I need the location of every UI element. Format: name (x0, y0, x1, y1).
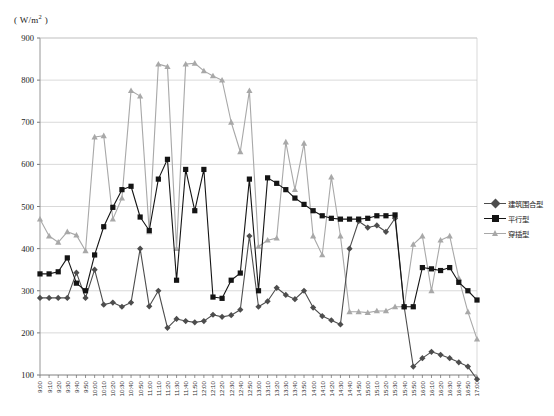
svg-text:11:10: 11:10 (155, 380, 162, 396)
svg-text:300: 300 (21, 286, 34, 296)
svg-text:16:20: 16:20 (437, 380, 444, 396)
svg-text:14:40: 14:40 (346, 380, 353, 396)
legend-label-0: 建筑围合型 (506, 198, 543, 209)
legend-item-jianzhuweiheixing[interactable]: 建筑围合型 (484, 196, 552, 211)
solar-radiation-line-chart: ( W/m2 ) 1002003004005006007008009009:00… (0, 0, 554, 416)
svg-text:15:00: 15:00 (364, 380, 371, 396)
svg-text:12:30: 12:30 (228, 380, 235, 396)
svg-text:200: 200 (21, 328, 34, 338)
svg-text:14:10: 14:10 (319, 380, 326, 396)
svg-text:11:30: 11:30 (173, 380, 180, 396)
legend-item-pingxingxing[interactable]: 平行型 (484, 211, 552, 226)
svg-text:10:00: 10:00 (91, 380, 98, 396)
svg-text:12:10: 12:10 (209, 380, 216, 396)
svg-text:15:10: 15:10 (373, 380, 380, 396)
svg-text:15:20: 15:20 (382, 380, 389, 396)
svg-text:400: 400 (21, 244, 34, 254)
svg-text:11:40: 11:40 (182, 380, 189, 396)
svg-text:900: 900 (21, 33, 34, 43)
svg-text:12:20: 12:20 (218, 380, 225, 396)
chart-svg: 1002003004005006007008009009:009:109:209… (0, 0, 554, 416)
svg-text:11:20: 11:20 (164, 380, 171, 396)
svg-text:9:40: 9:40 (73, 380, 80, 393)
legend-marker-diamond-icon (484, 198, 506, 209)
legend-label-1: 平行型 (506, 213, 529, 224)
svg-text:700: 700 (21, 117, 34, 127)
svg-text:13:30: 13:30 (282, 380, 289, 396)
chart-legend: 建筑围合型 平行型 穿插型 (484, 196, 552, 241)
svg-text:500: 500 (21, 202, 34, 212)
svg-text:16:10: 16:10 (428, 380, 435, 396)
legend-label-2: 穿插型 (506, 228, 529, 239)
svg-text:14:00: 14:00 (310, 380, 317, 396)
svg-text:11:00: 11:00 (146, 380, 153, 396)
legend-item-chuanchaxing[interactable]: 穿插型 (484, 226, 552, 241)
svg-text:14:30: 14:30 (337, 380, 344, 396)
svg-text:9:10: 9:10 (46, 380, 53, 393)
svg-text:9:20: 9:20 (55, 380, 62, 393)
svg-text:9:00: 9:00 (36, 380, 43, 393)
svg-text:100: 100 (21, 370, 34, 380)
svg-text:16:00: 16:00 (419, 380, 426, 396)
svg-text:13:00: 13:00 (255, 380, 262, 396)
svg-text:16:50: 16:50 (464, 380, 471, 396)
svg-text:600: 600 (21, 159, 34, 169)
plot-area: 1002003004005006007008009009:009:109:209… (0, 0, 554, 416)
svg-text:13:10: 13:10 (264, 380, 271, 396)
svg-text:13:50: 13:50 (300, 380, 307, 396)
svg-text:14:20: 14:20 (328, 380, 335, 396)
svg-text:9:50: 9:50 (82, 380, 89, 393)
svg-text:10:30: 10:30 (118, 380, 125, 396)
legend-marker-square-icon (484, 213, 506, 224)
svg-text:16:40: 16:40 (455, 380, 462, 396)
svg-text:13:40: 13:40 (291, 380, 298, 396)
svg-text:12:50: 12:50 (246, 380, 253, 396)
svg-text:14:50: 14:50 (355, 380, 362, 396)
svg-text:15:30: 15:30 (391, 380, 398, 396)
svg-text:10:50: 10:50 (137, 380, 144, 396)
svg-text:12:40: 12:40 (237, 380, 244, 396)
svg-text:9:30: 9:30 (64, 380, 71, 393)
svg-text:13:20: 13:20 (273, 380, 280, 396)
svg-text:15:40: 15:40 (401, 380, 408, 396)
svg-text:16:30: 16:30 (446, 380, 453, 396)
svg-text:10:40: 10:40 (127, 380, 134, 396)
svg-text:11:50: 11:50 (191, 380, 198, 396)
svg-text:10:10: 10:10 (100, 380, 107, 396)
svg-text:10:20: 10:20 (109, 380, 116, 396)
figure-caption (6, 406, 236, 416)
svg-text:17:00: 17:00 (473, 380, 480, 396)
legend-marker-triangle-icon (484, 228, 506, 239)
svg-text:15:50: 15:50 (410, 380, 417, 396)
svg-text:12:00: 12:00 (200, 380, 207, 396)
svg-text:800: 800 (21, 75, 34, 85)
